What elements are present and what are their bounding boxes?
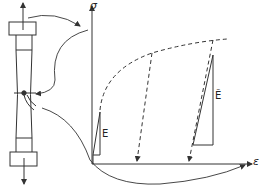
damaged-modulus-label: Ẽ <box>215 91 221 101</box>
modulus-triangles <box>93 55 213 164</box>
elastic-triangle <box>93 112 100 155</box>
diagram-canvas <box>0 0 271 186</box>
damaged-triangle <box>193 55 213 145</box>
elastic-modulus-label: E <box>102 129 108 139</box>
axes <box>92 6 252 164</box>
stress-strain-curve <box>100 39 227 161</box>
unloading-line-2 <box>189 40 213 161</box>
unloading-line-1 <box>137 53 152 161</box>
sigma-axis-label: σ <box>90 0 97 11</box>
specimen <box>9 3 37 184</box>
epsilon-axis-label: ε <box>253 156 259 167</box>
extensometer-icon <box>22 91 26 95</box>
tensile-test-diagram: σ ε E Ẽ <box>0 0 271 186</box>
